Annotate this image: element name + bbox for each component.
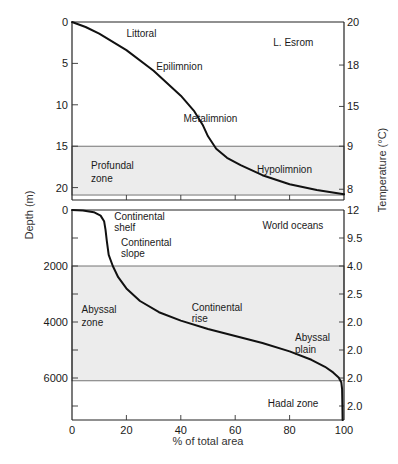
y2-tick-label: 9.5: [347, 232, 362, 244]
zone-label: Continental: [114, 211, 165, 222]
y2-tick-label: 12: [347, 204, 359, 216]
y2-tick-label: 2.0: [347, 372, 362, 384]
zone-label: Hypolimnion: [257, 164, 312, 175]
y2-axis-label: Temperature (°C): [376, 128, 388, 212]
y-tick-label: 15: [56, 140, 68, 152]
zone-label: World oceans: [262, 220, 323, 231]
zone-label: Metalimnion: [184, 113, 238, 124]
y-tick-label: 6000: [44, 372, 68, 384]
y-axis-label: Depth (m): [23, 191, 35, 240]
y2-tick-label: 15: [347, 100, 359, 112]
ocean-panel: 0204060801000200040006000129.54.02.52.02…: [44, 204, 363, 436]
zone-label: Continental: [121, 237, 172, 248]
y-tick-label: 4000: [44, 316, 68, 328]
y2-tick-label: 2.0: [347, 316, 362, 328]
y2-tick-label: 9: [347, 140, 353, 152]
x-tick-label: 100: [335, 424, 353, 436]
x-tick-label: 20: [120, 424, 132, 436]
x-axis-label: % of total area: [173, 435, 245, 447]
zone-label: Abyssal: [82, 304, 117, 315]
y2-tick-label: 4.0: [347, 260, 362, 272]
y-tick-label: 5: [62, 57, 68, 69]
zone-label: plain: [295, 344, 316, 355]
shaded-zone: [72, 266, 344, 381]
zone-label: Epilimnion: [156, 61, 202, 72]
zone-label: Littoral: [126, 28, 156, 39]
y-tick-label: 20: [56, 182, 68, 194]
y-tick-label: 2000: [44, 260, 68, 272]
zone-label: Profundal: [91, 160, 134, 171]
zone-label: L. Esrom: [273, 37, 313, 48]
y-tick-label: 0: [62, 204, 68, 216]
zone-label: Hadal zone: [268, 398, 319, 409]
y2-tick-label: 2.0: [347, 344, 362, 356]
y2-tick-label: 8: [347, 183, 353, 195]
y2-tick-label: 2.5: [347, 288, 362, 300]
hypsographic-chart: 0510152020181598LittoralEpilimnionMetali…: [0, 0, 398, 464]
y2-tick-label: 2.0: [347, 400, 362, 412]
zone-label: slope: [121, 248, 145, 259]
zone-label: zone: [91, 173, 113, 184]
zone-label: rise: [192, 313, 209, 324]
y2-tick-label: 20: [347, 16, 359, 28]
y2-tick-label: 18: [347, 59, 359, 71]
zone-label: zone: [82, 317, 104, 328]
lake-panel: 0510152020181598LittoralEpilimnionMetali…: [56, 16, 360, 200]
y-tick-label: 0: [62, 16, 68, 28]
x-tick-label: 0: [69, 424, 75, 436]
y-tick-label: 10: [56, 99, 68, 111]
x-tick-label: 80: [283, 424, 295, 436]
zone-label: Continental: [192, 302, 243, 313]
zone-label: Abyssal: [295, 332, 330, 343]
zone-label: shelf: [114, 222, 135, 233]
